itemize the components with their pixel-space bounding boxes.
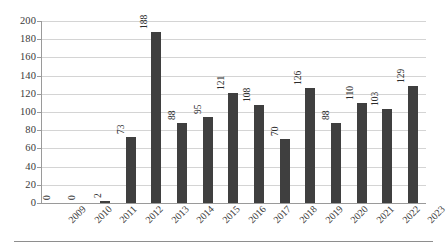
x-axis-tick-label: 2013 — [169, 204, 190, 225]
x-axis-tick-label: 2014 — [195, 204, 216, 225]
y-axis-tick-label: 140 — [0, 71, 36, 81]
x-axis-tick-label: 2021 — [375, 204, 396, 225]
x-axis-tick-label: 2017 — [272, 204, 293, 225]
y-axis-tick-label: 60 — [0, 143, 36, 153]
bottom-divider — [14, 241, 433, 242]
bar-slot: 0 — [41, 21, 67, 203]
bar-slot: 88 — [169, 21, 195, 203]
x-axis-tick-label: 2011 — [118, 204, 139, 225]
bar-slot: 110 — [349, 21, 375, 203]
bar-slot: 188 — [144, 21, 170, 203]
y-axis-tick-label: 40 — [0, 162, 36, 172]
x-axis-tick-label: 2023 — [426, 204, 447, 225]
bar-slot: 126 — [298, 21, 324, 203]
bar[interactable] — [357, 103, 367, 203]
bar-slot: 2 — [92, 21, 118, 203]
y-axis-tick-label: 20 — [0, 180, 36, 190]
x-axis-tick-label: 2022 — [400, 204, 421, 225]
bar[interactable] — [203, 117, 213, 203]
y-axis-tick-label: 120 — [0, 89, 36, 99]
bar[interactable] — [126, 137, 136, 203]
x-axis-tick-label: 2016 — [246, 204, 267, 225]
bar[interactable] — [228, 93, 238, 203]
bar-slot: 95 — [195, 21, 221, 203]
bar-slot: 103 — [375, 21, 401, 203]
y-axis-tick-label: 160 — [0, 52, 36, 62]
bar-value-label: 121 — [216, 76, 226, 90]
bar-slot: 70 — [272, 21, 298, 203]
bar-value-label: 0 — [67, 195, 77, 200]
bar-value-label: 126 — [293, 71, 303, 85]
bar[interactable] — [151, 32, 161, 203]
x-axis-tick-label: 2020 — [349, 204, 370, 225]
bar[interactable] — [254, 105, 264, 203]
bar-value-label: 88 — [321, 110, 331, 120]
bars-layer: 0027318888951211087012688110103129 — [41, 21, 426, 203]
x-axis-tick-labels: 2009201020112012201320142015201620172018… — [41, 204, 426, 238]
bar-slot: 73 — [118, 21, 144, 203]
x-axis-tick-label: 2010 — [92, 204, 113, 225]
y-axis-tick-label: 100 — [0, 107, 36, 117]
bar-value-label: 95 — [193, 104, 203, 114]
bar-slot: 121 — [221, 21, 247, 203]
bar-value-label: 73 — [116, 124, 126, 134]
bar-value-label: 70 — [270, 127, 280, 137]
y-axis-tick-label: 0 — [0, 198, 36, 208]
x-axis-tick-label: 2019 — [323, 204, 344, 225]
x-axis-tick-label: 2009 — [67, 204, 88, 225]
bar-slot: 108 — [246, 21, 272, 203]
x-axis-tick-label: 2012 — [144, 204, 165, 225]
x-axis-tick-label: 2018 — [298, 204, 319, 225]
x-axis-tick-label: 2015 — [221, 204, 242, 225]
bar-value-label: 108 — [242, 87, 252, 101]
bar-slot: 88 — [323, 21, 349, 203]
bar-chart: 020406080100120140160180200 002731888895… — [0, 0, 447, 251]
bar[interactable] — [177, 123, 187, 203]
bar-value-label: 110 — [345, 86, 355, 100]
bar-value-label: 103 — [370, 92, 380, 106]
bar[interactable] — [408, 86, 418, 203]
y-axis-tick-label: 80 — [0, 125, 36, 135]
bar-value-label: 88 — [167, 110, 177, 120]
bar-slot: 129 — [400, 21, 426, 203]
y-axis-tick-label: 180 — [0, 34, 36, 44]
bar[interactable] — [280, 139, 290, 203]
bar-value-label: 188 — [139, 15, 149, 29]
bar-slot: 0 — [67, 21, 93, 203]
bar[interactable] — [305, 88, 315, 203]
bar-value-label: 0 — [41, 195, 51, 200]
bar-value-label: 129 — [396, 68, 406, 82]
bar[interactable] — [382, 109, 392, 203]
y-axis-tick-label: 200 — [0, 16, 36, 26]
bar-value-label: 2 — [93, 193, 103, 198]
y-axis-tick-labels: 020406080100120140160180200 — [0, 21, 36, 203]
bar[interactable] — [331, 123, 341, 203]
